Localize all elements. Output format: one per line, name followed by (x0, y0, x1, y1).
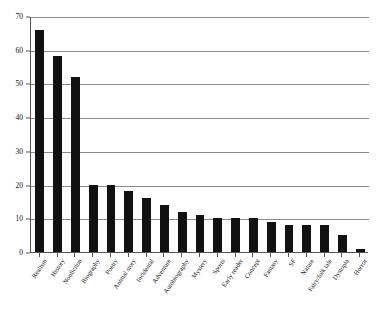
x-tick-label: Biography (29, 258, 102, 312)
y-tick-label: 50 (16, 81, 24, 89)
x-tick-mark (288, 253, 289, 257)
x-tick-label: Nonfiction (11, 258, 84, 312)
x-tick-label: Animal story (65, 258, 138, 312)
bar (89, 185, 98, 252)
bar (267, 222, 276, 252)
y-tick-label: 60 (16, 47, 24, 55)
x-tick-mark (235, 253, 236, 257)
plot-area (30, 17, 368, 253)
bar (142, 198, 151, 252)
bar (178, 212, 187, 252)
x-tick-label: Sports (154, 258, 227, 312)
x-tick-mark (39, 253, 40, 257)
x-tick-mark (146, 253, 147, 257)
x-tick-mark (181, 253, 182, 257)
x-tick-mark (92, 253, 93, 257)
bar (338, 235, 347, 252)
x-tick-mark (163, 253, 164, 257)
bar-series (31, 16, 369, 252)
x-tick-label: Realism (0, 258, 48, 312)
bar (213, 218, 222, 252)
x-tick-mark (306, 253, 307, 257)
x-tick-label: Dystopia (278, 258, 351, 312)
bar (320, 225, 329, 252)
y-axis: 010203040506070 (0, 0, 30, 253)
bar-chart: 010203040506070 RealismHistoryNonfiction… (0, 0, 380, 312)
x-tick-label: Early reader (171, 258, 244, 312)
bar (285, 225, 294, 252)
y-tick-label: 0 (19, 249, 23, 257)
bar (160, 205, 169, 252)
bar (124, 191, 133, 252)
bar (231, 218, 240, 252)
x-tick-label: Mystery (136, 258, 209, 312)
x-tick-label: Adventure (100, 258, 173, 312)
bar (196, 215, 205, 252)
x-tick-mark (359, 253, 360, 257)
x-tick-mark (74, 253, 75, 257)
x-tick-mark (199, 253, 200, 257)
bar (35, 30, 44, 253)
bar (249, 218, 258, 252)
bar (107, 185, 116, 252)
x-tick-mark (270, 253, 271, 257)
x-tick-label: SF (225, 258, 298, 312)
y-tick-label: 20 (16, 182, 24, 190)
x-tick-mark (128, 253, 129, 257)
bar (356, 249, 365, 252)
x-tick-label: Poetry (47, 258, 120, 312)
x-tick-label: Autobiography (118, 258, 191, 312)
bar (302, 225, 311, 252)
x-tick-label: Fantasy (207, 258, 280, 312)
x-tick-mark (57, 253, 58, 257)
x-tick-mark (324, 253, 325, 257)
x-tick-mark (110, 253, 111, 257)
x-tick-label: Nature (243, 258, 316, 312)
x-tick-label: Incidental (83, 258, 156, 312)
bar (71, 77, 80, 252)
y-tick-label: 40 (16, 114, 24, 122)
x-tick-mark (252, 253, 253, 257)
y-tick-label: 70 (16, 13, 24, 21)
x-tick-label: Fairy/folk tale (260, 258, 333, 312)
x-tick-mark (341, 253, 342, 257)
x-tick-mark (217, 253, 218, 257)
bar (53, 56, 62, 252)
x-tick-label: Concept (189, 258, 262, 312)
y-tick-label: 10 (16, 216, 24, 224)
x-tick-label: History (0, 258, 66, 312)
x-tick-label: Horror (296, 258, 369, 312)
y-tick-label: 30 (16, 148, 24, 156)
